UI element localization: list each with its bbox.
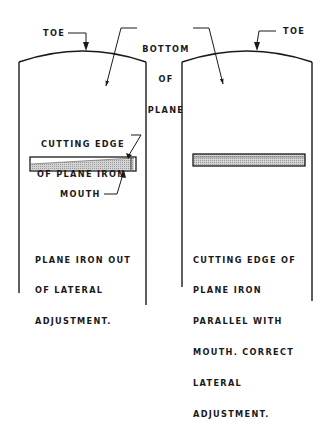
right-caption-line-4: MOUTH. CORRECT: [193, 347, 296, 357]
mouth-label: MOUTH: [60, 189, 101, 199]
right-caption-line-1: CUTTING EDGE OF: [193, 255, 296, 265]
right-plane-iron: [193, 154, 305, 166]
bottom-of-plane-label: BOTTOM OF PLANE: [137, 23, 195, 136]
right-caption-line-6: ADJUSTMENT.: [193, 409, 296, 419]
cutting-edge-line-2: OF PLANE IRON: [37, 169, 125, 179]
toe-right-label: TOE: [283, 26, 305, 36]
bottom-of-plane-line-3: PLANE: [137, 105, 195, 115]
left-caption: PLANE IRON OUT OF LATERAL ADJUSTMENT.: [35, 234, 131, 347]
left-caption-line-2: OF LATERAL: [35, 285, 131, 295]
right-caption-line-2: PLANE IRON: [193, 285, 296, 295]
cutting-edge-line-1: CUTTING EDGE: [37, 139, 125, 149]
toe-right-leader: [254, 31, 276, 51]
right-caption-line-3: PARALLEL WITH: [193, 316, 296, 326]
left-caption-line-3: ADJUSTMENT.: [35, 316, 131, 326]
toe-left-leader: [68, 33, 89, 51]
cutting-edge-leader: [126, 135, 141, 159]
right-caption-line-5: LATERAL: [193, 378, 296, 388]
bottom-of-plane-line-1: BOTTOM: [137, 44, 195, 54]
right-caption: CUTTING EDGE OF PLANE IRON PARALLEL WITH…: [193, 234, 296, 423]
bottom-of-plane-line-2: OF: [137, 74, 195, 84]
left-caption-line-1: PLANE IRON OUT: [35, 255, 131, 265]
toe-left-label: TOE: [43, 28, 65, 38]
